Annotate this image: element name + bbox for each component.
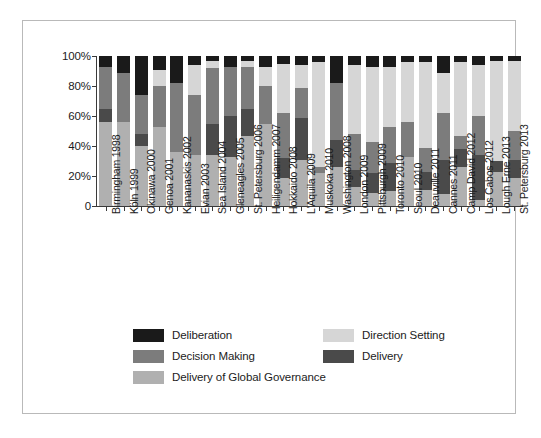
x-axis-tick-mark (248, 207, 249, 211)
y-axis-tick-label: 20% (47, 171, 91, 181)
bar-segment (259, 67, 272, 87)
bar-segment (277, 56, 290, 64)
legend-swatch (133, 329, 164, 342)
y-axis-tick-labels: 020%40%60%80%100% (47, 67, 91, 237)
x-axis-tick-mark (106, 207, 107, 211)
x-axis-tick-mark (479, 207, 480, 211)
legend-swatch (323, 329, 354, 342)
y-axis-tick-label: 80% (47, 81, 91, 91)
legend-swatch (323, 350, 354, 363)
x-axis-tick-label: Hokkaido 2008 (287, 147, 299, 214)
bar-segment (135, 134, 148, 146)
x-axis-tick-mark (372, 207, 373, 211)
x-axis-tick-label: Okinawa 2000 (145, 149, 157, 214)
y-axis-tick-label: 40% (47, 141, 91, 151)
x-axis-tick-label: St. Petersburg 2006 (252, 124, 264, 214)
bar-segment (401, 122, 414, 157)
x-axis-tick-mark (195, 207, 196, 211)
bar-segment (188, 65, 201, 95)
x-axis-tick-mark (230, 207, 231, 211)
bar-segment (99, 109, 112, 123)
legend-swatch (133, 371, 164, 384)
bar-segment (259, 86, 272, 124)
bar-segment (437, 73, 450, 114)
x-axis-tick-mark (159, 207, 160, 211)
x-axis-tick-label: Los Cabos 2012 (483, 140, 495, 214)
x-axis-tick-mark (301, 207, 302, 211)
bar-segment (419, 62, 432, 148)
bar-segment (401, 62, 414, 122)
bar-segment (206, 56, 219, 61)
legend-label: Deliberation (172, 328, 232, 342)
bar-segment (295, 88, 308, 118)
x-axis-tick-label: Genoa 2001 (163, 158, 175, 214)
y-axis-tick-label: 60% (47, 111, 91, 121)
bar-segment (206, 68, 219, 124)
x-axis-tick-label: Lough Erne 2013 (500, 136, 512, 214)
bar-segment (348, 65, 361, 134)
bar-segment (366, 56, 379, 67)
y-axis-tick-label: 100% (47, 51, 91, 61)
x-axis-tick-mark (390, 207, 391, 211)
x-axis-tick-mark (443, 207, 444, 211)
x-axis-tick-mark (141, 207, 142, 211)
bar-segment (312, 56, 325, 62)
x-axis-tick-mark (425, 207, 426, 211)
bar-segment (419, 56, 432, 62)
y-axis-tick-mark (92, 176, 96, 177)
y-axis-tick-mark (92, 56, 96, 57)
x-axis-tick-label: Deauville 2011 (429, 148, 441, 214)
bar-segment (366, 67, 379, 142)
bar-segment (454, 56, 467, 62)
chart-frame: 020%40%60%80%100% Birmingham 1998Köln 19… (22, 20, 516, 414)
x-axis-tick-label: Camp David 2012 (465, 133, 477, 214)
x-axis-tick-mark (212, 207, 213, 211)
x-axis-tick-label: Cannes 2011 (447, 155, 459, 215)
x-axis-tick-mark (124, 207, 125, 211)
x-axis-tick-mark (461, 207, 462, 211)
bar-segment (508, 61, 521, 132)
x-axis-tick-mark (337, 207, 338, 211)
bar-segment (401, 56, 414, 62)
bar-segment (153, 56, 166, 70)
bar-segment (295, 65, 308, 88)
x-axis-tick-mark (408, 207, 409, 211)
x-axis-tick-label: Pittsburgh 2009 (376, 143, 388, 214)
x-axis-tick-label: Toronto 2010 (394, 155, 406, 214)
bar-segment (188, 56, 201, 65)
legend-label: Direction Setting (362, 328, 445, 342)
x-axis-tick-label: Seoul 2010 (412, 163, 424, 214)
bar-segment (135, 95, 148, 134)
x-axis-tick-label: London 2009 (358, 155, 370, 214)
bar-segment (454, 62, 467, 136)
bar-segment (330, 56, 343, 83)
x-axis-tick-label: Sea Island 2004 (216, 141, 228, 214)
x-axis-tick-label: Birmingham 1998 (110, 135, 122, 214)
x-axis-tick-mark (266, 207, 267, 211)
y-axis-tick-mark (92, 146, 96, 147)
bar-segment (490, 56, 503, 61)
bar-segment (472, 56, 485, 65)
bar-segment (330, 83, 343, 140)
x-axis-tick-label: Heiligendamm 2007 (270, 124, 282, 214)
bar-segment (224, 67, 237, 117)
bar-segment (99, 56, 112, 67)
x-axis-tick-label: L'Aquila 2009 (305, 153, 317, 214)
bar-segment (241, 61, 254, 67)
bar-segment (135, 56, 148, 95)
bar-segment (348, 56, 361, 65)
x-axis-tick-label: Muskoka 2010 (323, 148, 335, 214)
bar-segment (295, 56, 308, 65)
bar-segment (472, 65, 485, 116)
x-axis-tick-mark (514, 207, 515, 211)
legend-label: Decision Making (172, 349, 255, 363)
bar-segment (277, 64, 290, 114)
bar-segment (153, 70, 166, 87)
chart-legend: DeliberationDirection SettingDecision Ma… (133, 328, 463, 388)
legend-label: Delivery (362, 349, 403, 363)
x-axis-tick-label: Köln 1999 (128, 169, 140, 215)
x-axis-tick-label: Evian 2003 (199, 163, 211, 214)
bar-segment (383, 67, 396, 127)
bar-segment (117, 73, 130, 123)
bar-segment (99, 67, 112, 109)
